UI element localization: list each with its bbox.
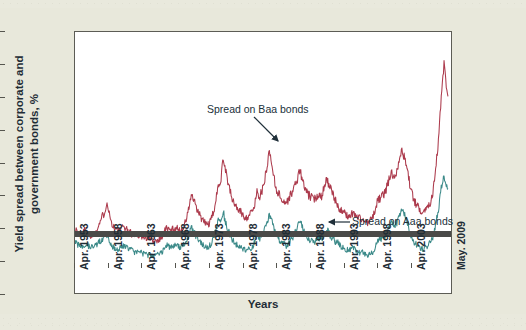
y-tick-mark [0, 31, 5, 32]
x-tick-mark [243, 263, 244, 268]
annotation-baa-label: Spread on Baa bonds [207, 103, 309, 115]
y-axis: 76543210−1 [0, 0, 74, 330]
annotation-baa-arrow [252, 115, 292, 149]
x-tick-mark [377, 263, 378, 268]
x-tick-mark [209, 263, 210, 268]
x-tick-mark [74, 263, 75, 268]
x-tick-label: Apr. 1998 [381, 223, 393, 270]
x-tick-label: May. 2009 [455, 221, 467, 270]
x-tick-mark [451, 263, 452, 268]
y-tick-mark [0, 97, 5, 98]
y-tick-mark [0, 195, 5, 196]
series-lines [75, 32, 451, 293]
y-tick-mark [0, 294, 5, 295]
plot-area [74, 31, 452, 294]
x-tick-label: Apr. 1963 [145, 223, 157, 270]
x-tick-label: Apr. 1958 [112, 223, 124, 270]
x-tick-mark [175, 263, 176, 268]
x-tick-label: Apr. 2003 [415, 223, 427, 270]
y-tick-mark [0, 261, 5, 262]
y-tick-mark [0, 163, 5, 164]
x-tick-label: Apr. 1988 [314, 223, 326, 270]
x-tick-label: Apr. 1978 [247, 223, 259, 270]
x-axis-title: Years [74, 298, 452, 310]
zero-line-band [75, 231, 451, 237]
x-tick-label: Apr. 1983 [280, 223, 292, 270]
annotation-aaa-label: Spread on Aaa bonds [352, 215, 453, 227]
x-tick-label: Apr. 1953 [78, 223, 90, 270]
y-tick-mark [0, 228, 5, 229]
x-tick-label: Apr. 1973 [213, 223, 225, 270]
annotation-aaa-arrow [325, 215, 353, 229]
x-tick-label: Apr. 1968 [179, 223, 191, 270]
x-tick-label: Apr. 1993 [348, 223, 360, 270]
x-tick-mark [276, 263, 277, 268]
x-tick-mark [411, 263, 412, 268]
y-tick-mark [0, 130, 5, 131]
y-tick-mark [0, 64, 5, 65]
x-tick-mark [310, 263, 311, 268]
x-tick-mark [108, 263, 109, 268]
x-tick-mark [141, 263, 142, 268]
x-tick-mark [344, 263, 345, 268]
figure-page: Yield spread between corporate and gover… [0, 0, 526, 330]
